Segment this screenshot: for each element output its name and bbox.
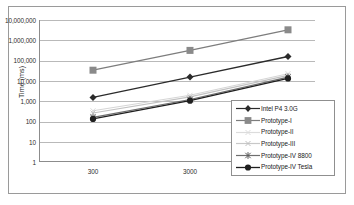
diamond-marker-icon <box>235 103 261 114</box>
legend-label: Prototype-IV Tesla <box>261 163 312 171</box>
legend-item-prototype-ii[interactable]: Prototype-II <box>235 126 331 138</box>
legend-item-prototype-iv-8800[interactable]: Prototype-IV 8800 <box>235 150 331 162</box>
chart-legend: Intel P4 3.0G Prototype-I Prototyp <box>231 100 335 176</box>
legend-label: Prototype-III <box>261 140 295 148</box>
legend-label: Prototype-I <box>261 117 292 125</box>
legend-label: Intel P4 3.0G <box>261 105 298 113</box>
asterisk-marker-icon <box>235 150 261 161</box>
square-marker-icon <box>235 115 261 126</box>
x-tick-label: 3000 <box>170 168 210 176</box>
legend-item-prototype-i[interactable]: Prototype-I <box>235 115 331 127</box>
x-tick-label: 300 <box>73 168 113 176</box>
light-line-marker-icon <box>235 127 261 138</box>
series-intel-p4 <box>90 53 292 101</box>
legend-item-intel-p4[interactable]: Intel P4 3.0G <box>235 103 331 115</box>
legend-label: Prototype-II <box>261 128 293 136</box>
legend-label: Prototype-IV 8800 <box>261 152 312 160</box>
x-marker-icon <box>235 138 261 149</box>
series-prototype-i <box>90 26 292 73</box>
circle-marker-icon <box>235 162 261 173</box>
legend-item-prototype-iii[interactable]: Prototype-III <box>235 138 331 150</box>
legend-item-prototype-iv-tesla[interactable]: Prototype-IV Tesla <box>235 161 331 173</box>
chart-container: 10,000,000 1,000,000 100,000 10,000 1,00… <box>0 0 354 205</box>
